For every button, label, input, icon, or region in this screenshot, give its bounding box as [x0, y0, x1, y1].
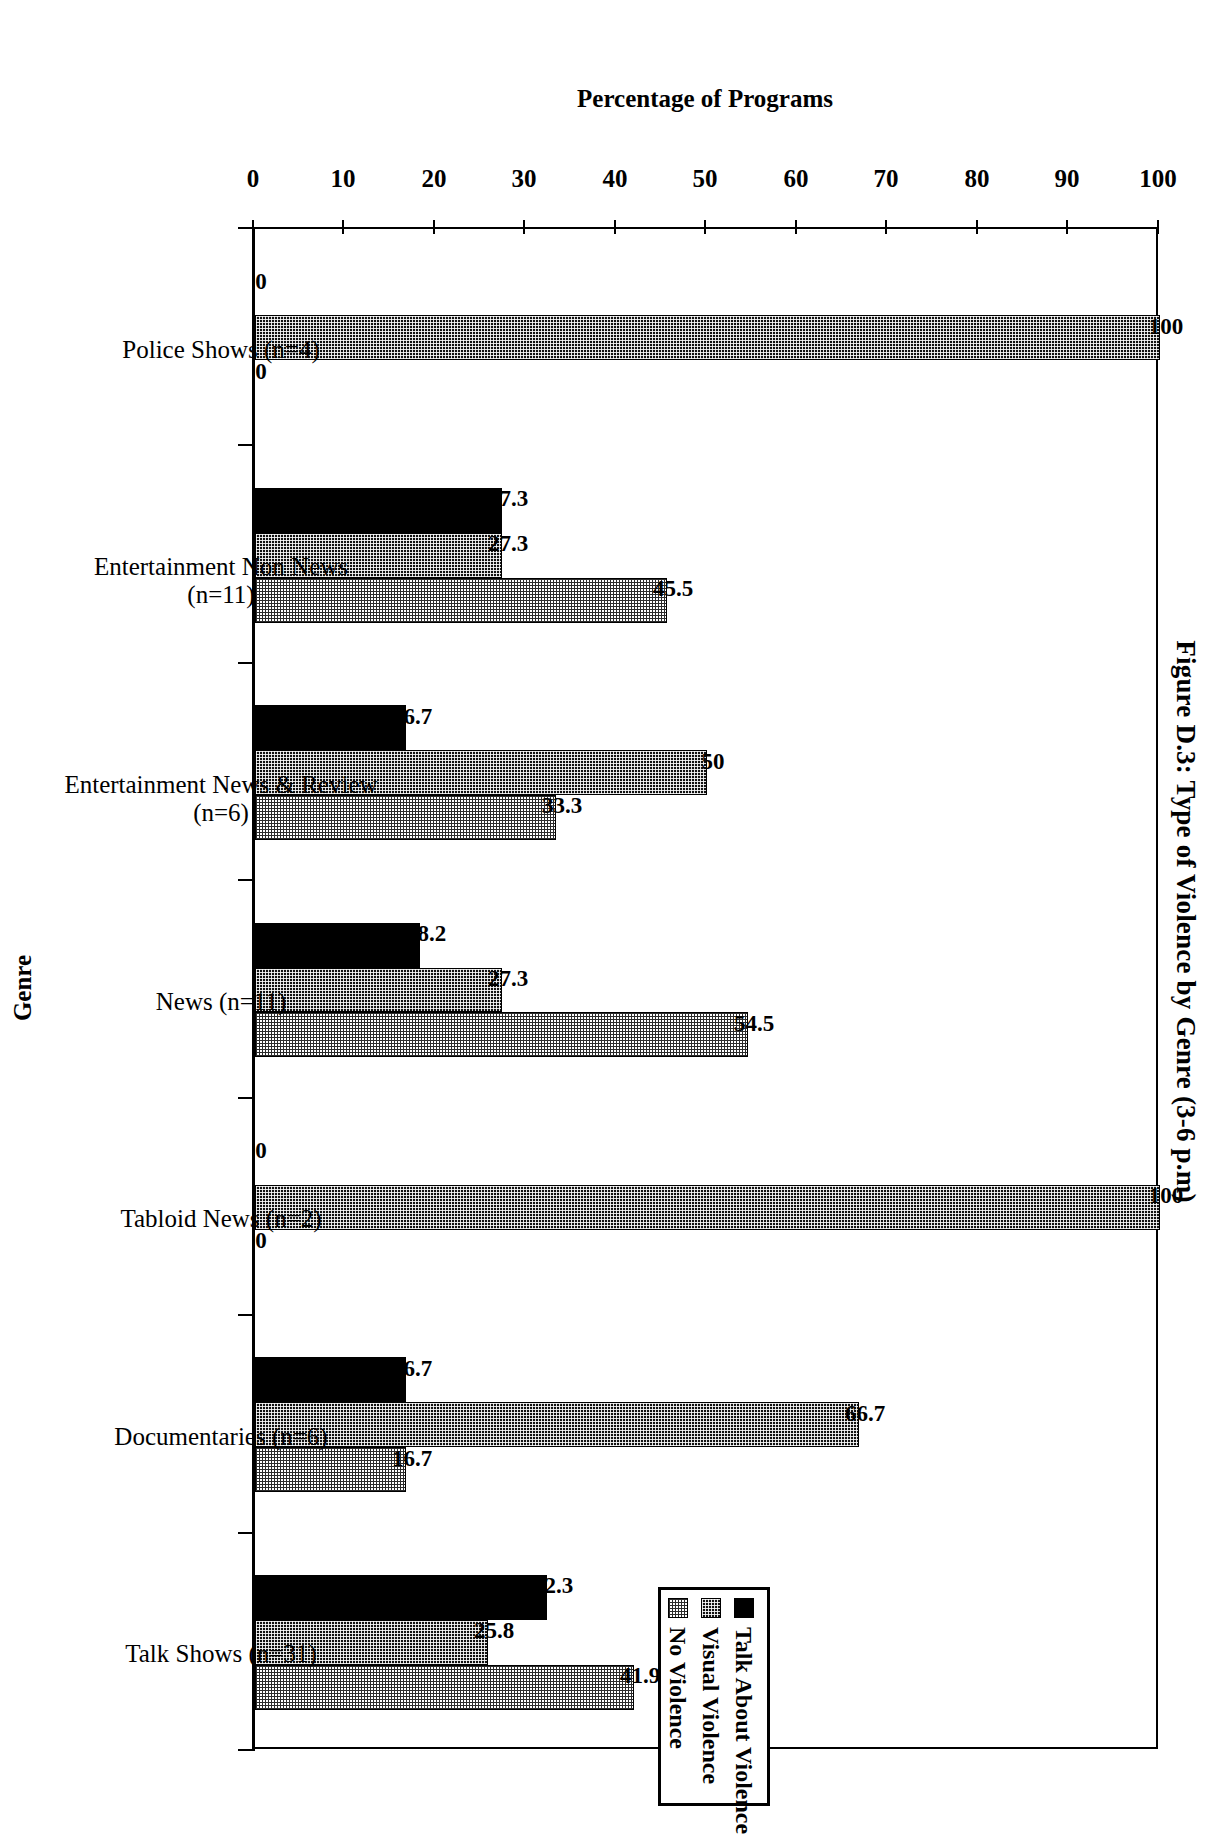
figure-page: Figure D.3: Type of Violence by Genre (3…: [0, 0, 1215, 1843]
bar-group: 01000: [255, 1140, 1156, 1275]
light-dotted-swatch: [669, 1598, 689, 1618]
bar-value-label: 45.5: [653, 577, 693, 600]
bar-group: 18.227.354.5: [255, 923, 1156, 1058]
bar-talk-about-violence: [255, 705, 406, 750]
bar-value-label: 33.3: [542, 794, 582, 817]
bar-group: 16.75033.3: [255, 705, 1156, 840]
category-axis-label: Police Shows (n=4): [122, 336, 319, 364]
legend-item: Visual Violence: [695, 1598, 728, 1795]
bar-no-violence: [255, 1665, 634, 1710]
category-axis-tick: [238, 662, 255, 664]
category-axis-tick: [238, 1314, 255, 1316]
bar-value-label: 16.7: [392, 705, 432, 728]
bar-value-label: 32.3: [533, 1574, 573, 1597]
bar-talk-about-violence: [255, 1357, 406, 1402]
value-axis-tick-label: 60: [784, 165, 809, 193]
rotated-figure-canvas: Figure D.3: Type of Violence by Genre (3…: [0, 0, 1215, 1843]
bar-visual-violence: [255, 1402, 859, 1447]
category-axis-tick: [238, 227, 255, 229]
bar-value-label: 100: [1149, 1184, 1184, 1207]
category-axis-label: Entertainment News & Review(n=6): [64, 771, 377, 827]
bar-value-label: 0: [255, 1139, 267, 1162]
value-axis-tick-label: 20: [422, 165, 447, 193]
bar-value-label: 18.2: [406, 922, 446, 945]
legend-item-label: Visual Violence: [700, 1627, 724, 1784]
dark-dotted-swatch: [702, 1598, 722, 1618]
category-axis-tick: [238, 879, 255, 881]
bar-no-violence: [255, 1447, 406, 1492]
category-axis-title: Genre: [9, 955, 37, 1021]
bar-value-label: 41.9: [620, 1664, 660, 1687]
category-axis-label: Talk Shows (n=31): [125, 1640, 317, 1668]
bar-talk-about-violence: [255, 923, 420, 968]
figure-title: Figure D.3: Type of Violence by Genre (3…: [1170, 0, 1201, 1843]
bar-value-label: 0: [255, 270, 267, 293]
bar-value-label: 27.3: [488, 532, 528, 555]
category-axis-tick: [238, 1097, 255, 1099]
bar-group: 16.766.716.7: [255, 1357, 1156, 1492]
category-axis-label: Entertainment Non News(n=11): [94, 553, 348, 609]
value-axis-tick-label: 80: [965, 165, 990, 193]
bar-value-label: 25.8: [474, 1619, 514, 1642]
bar-no-violence: [255, 1012, 748, 1057]
category-axis: Police Shows (n=4)Entertainment Non News…: [5, 0, 255, 1843]
bar-value-label: 66.7: [845, 1402, 885, 1425]
legend-item-label: Talk About Violence: [733, 1627, 757, 1834]
bar-visual-violence: [255, 968, 502, 1013]
plot-area: 0100027.327.345.516.75033.318.227.354.50…: [253, 227, 1158, 1749]
bar-value-label: 54.5: [734, 1012, 774, 1035]
category-axis-label: News (n=11): [156, 988, 287, 1016]
bar-group: 01000: [255, 270, 1156, 405]
bar-visual-violence: [255, 1185, 1160, 1230]
bar-value-label: 16.7: [392, 1357, 432, 1380]
legend-item: No Violence: [662, 1598, 695, 1795]
legend-item: Talk About Violence: [728, 1598, 761, 1795]
bar-talk-about-violence: [255, 1575, 547, 1620]
legend-item-label: No Violence: [667, 1627, 691, 1749]
value-axis-tick-label: 50: [693, 165, 718, 193]
value-axis-tick-label: 40: [603, 165, 628, 193]
bar-group: 27.327.345.5: [255, 488, 1156, 623]
bar-value-label: 27.3: [488, 967, 528, 990]
bar-visual-violence: [255, 315, 1160, 360]
value-axis-tick-label: 70: [874, 165, 899, 193]
bar-value-label: 100: [1149, 315, 1184, 338]
category-axis-label: Documentaries (n=6): [114, 1423, 327, 1451]
bar-value-label: 16.7: [392, 1447, 432, 1470]
value-axis-tick-label: 10: [331, 165, 356, 193]
category-axis-tick: [238, 1749, 255, 1751]
category-axis-label: Tabloid News (n=2): [120, 1205, 321, 1233]
bar-talk-about-violence: [255, 488, 502, 533]
value-axis-tick-label: 30: [512, 165, 537, 193]
category-axis-tick: [238, 1532, 255, 1534]
value-axis-tick-label: 90: [1055, 165, 1080, 193]
category-axis-tick: [238, 444, 255, 446]
bar-value-label: 27.3: [488, 487, 528, 510]
legend-box: Talk About ViolenceVisual ViolenceNo Vio…: [658, 1587, 770, 1806]
value-axis-title: Percentage of Programs: [578, 85, 834, 113]
solid-black-swatch: [735, 1598, 755, 1618]
bar-value-label: 50: [702, 750, 725, 773]
